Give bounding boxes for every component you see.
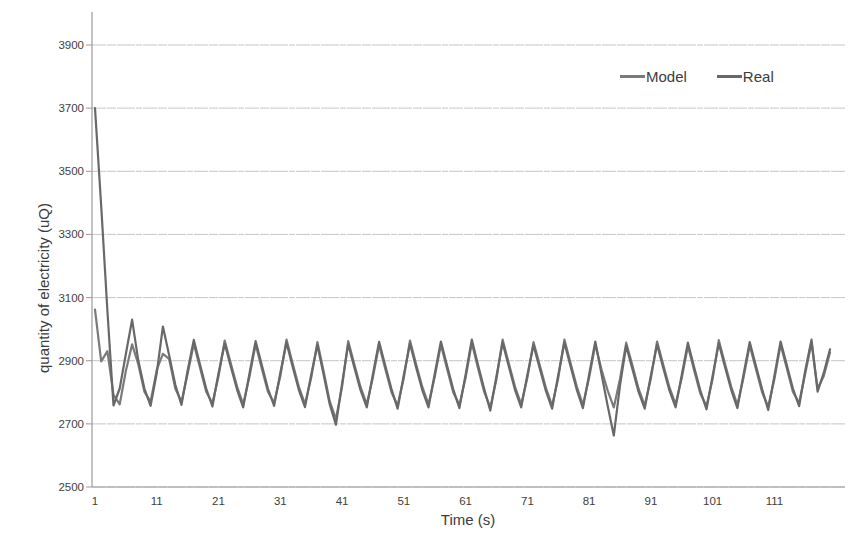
y-tick-label-3900: 3900 xyxy=(58,39,84,51)
real-line-swatch xyxy=(717,75,742,78)
y-tick-label-3300: 3300 xyxy=(58,228,84,240)
legend: Model Real xyxy=(620,69,774,84)
y-tick-label-3700: 3700 xyxy=(58,102,84,114)
chart-figure: 2500270029003100330035003700390011121314… xyxy=(0,0,859,560)
legend-label-real: Real xyxy=(743,69,774,84)
line-chart-plot: 2500270029003100330035003700390011121314… xyxy=(0,0,859,560)
legend-item-real: Real xyxy=(717,69,774,84)
legend-label-model: Model xyxy=(646,69,687,84)
series-line-real xyxy=(95,108,830,435)
x-tick-label-81: 81 xyxy=(583,495,596,507)
x-tick-label-101: 101 xyxy=(703,495,722,507)
y-tick-label-2500: 2500 xyxy=(58,481,84,493)
y-tick-label-2900: 2900 xyxy=(58,355,84,367)
x-tick-label-21: 21 xyxy=(212,495,225,507)
x-tick-label-11: 11 xyxy=(151,495,163,507)
x-tick-label-51: 51 xyxy=(397,495,410,507)
x-tick-label-41: 41 xyxy=(336,495,349,507)
x-tick-label-31: 31 xyxy=(274,495,287,507)
x-axis-title: Time (s) xyxy=(441,511,495,528)
series-line-model xyxy=(95,310,830,420)
x-tick-label-1: 1 xyxy=(92,495,98,507)
x-tick-label-91: 91 xyxy=(645,495,658,507)
x-tick-label-61: 61 xyxy=(459,495,472,507)
x-tick-label-111: 111 xyxy=(766,495,783,507)
model-line-swatch xyxy=(620,75,645,78)
legend-item-model: Model xyxy=(620,69,687,84)
y-tick-label-3500: 3500 xyxy=(58,165,84,177)
x-tick-label-71: 71 xyxy=(521,495,534,507)
y-axis-title: quantity of electricity (uQ) xyxy=(35,203,52,373)
y-tick-label-2700: 2700 xyxy=(58,418,84,430)
y-tick-label-3100: 3100 xyxy=(58,292,84,304)
